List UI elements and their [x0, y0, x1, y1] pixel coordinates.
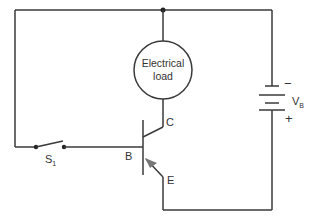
emitter-arrow-icon	[145, 158, 157, 168]
load-label-line2: load	[133, 70, 193, 83]
battery-positive-sign: +	[285, 112, 293, 125]
circuit-diagram	[0, 0, 320, 222]
load-label: Electrical load	[133, 57, 193, 83]
load-label-line1: Electrical	[133, 57, 193, 70]
battery-label-subscript: B	[299, 102, 304, 109]
base-label: B	[125, 151, 132, 162]
switch-label-subscript: 1	[52, 160, 56, 167]
transistor-collector-leg	[143, 127, 163, 137]
switch-lever	[36, 141, 63, 147]
switch-label: S1	[45, 154, 56, 167]
battery-label: VB	[292, 96, 304, 109]
emitter-label: E	[167, 175, 174, 186]
collector-label: C	[166, 117, 174, 128]
battery-negative-sign: −	[284, 77, 292, 90]
